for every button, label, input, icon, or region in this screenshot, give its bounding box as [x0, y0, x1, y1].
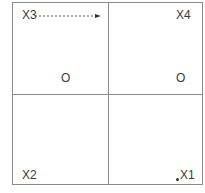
- point-dot-icon: [176, 178, 179, 181]
- dashed-arrow-icon: [35, 14, 101, 18]
- marker-o-top-left: O: [61, 72, 70, 84]
- label-x4: X4: [176, 9, 191, 21]
- marker-o-top-right: O: [176, 72, 185, 84]
- label-x2: X2: [22, 169, 37, 181]
- horizontal-divider: [13, 94, 202, 95]
- label-x1: X1: [180, 169, 195, 181]
- quadrant-grid: [12, 2, 203, 185]
